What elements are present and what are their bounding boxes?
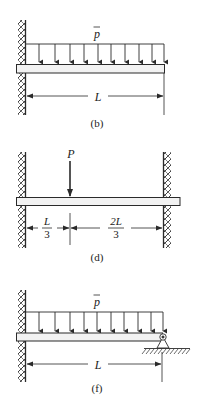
caption: (d) — [91, 251, 104, 264]
svg-text:3: 3 — [113, 228, 119, 240]
distributed-load-arrows-icon — [26, 44, 164, 62]
arrowhead-icon — [67, 189, 73, 197]
figure-d: P L 3 2L 3 (d) — [17, 147, 181, 264]
fraction-2l-over-3: 2L 3 — [108, 215, 124, 240]
svg-text:L: L — [43, 215, 50, 227]
caption: (b) — [91, 117, 104, 130]
distributed-load-arrows-icon — [26, 312, 163, 331]
caption: (f) — [92, 382, 103, 395]
svg-text:3: 3 — [44, 228, 50, 240]
fraction-l-over-3: L 3 — [42, 215, 52, 240]
length-label: L — [94, 90, 102, 104]
load-label: p — [93, 27, 100, 41]
figure-f: p — [17, 290, 191, 395]
length-label: L — [94, 358, 102, 372]
svg-text:2L: 2L — [110, 215, 122, 227]
beam — [17, 198, 181, 206]
figure-b: p L (b) — [17, 20, 165, 130]
beam-diagrams: p L (b) — [0, 0, 199, 396]
load-label: p — [93, 295, 100, 309]
beam — [17, 65, 165, 74]
beam — [17, 333, 163, 341]
load-label: P — [66, 147, 75, 161]
